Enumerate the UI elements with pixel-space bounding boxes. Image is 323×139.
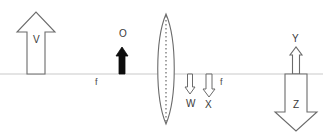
arrow-o-object <box>116 47 128 74</box>
arrow-label-y: Y <box>292 34 299 44</box>
arrow-w <box>185 74 195 94</box>
focal-point-label-right: f <box>220 78 223 87</box>
arrow-label-v: V <box>33 35 40 45</box>
arrow-label-o: O <box>119 29 127 39</box>
focal-point-label-left: f <box>95 78 98 87</box>
arrow-x <box>203 74 215 97</box>
optics-ray-diagram: V O W X Y Z f f <box>0 0 323 139</box>
arrow-label-w: W <box>186 99 195 109</box>
diagram-canvas <box>0 0 323 139</box>
arrow-label-z: Z <box>293 100 299 110</box>
arrow-label-x: X <box>205 100 212 110</box>
arrow-y <box>290 47 302 74</box>
